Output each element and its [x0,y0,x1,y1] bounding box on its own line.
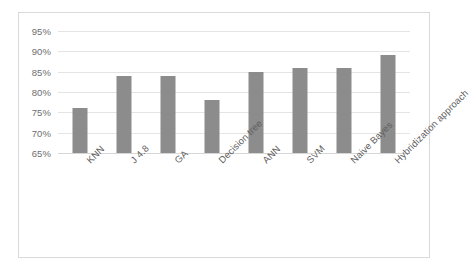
bar[interactable] [293,68,308,153]
bar[interactable] [161,76,176,153]
bar[interactable] [337,68,352,153]
bar-slot [278,31,322,153]
y-axis-tick-label: 70% [32,127,51,138]
bar-slot [322,31,366,153]
chart-frame: 95%90%85%80%75%70%65% KNNJ 4.8GADecision… [18,12,430,258]
plot-area: 95%90%85%80%75%70%65% KNNJ 4.8GADecision… [58,31,410,153]
bar[interactable] [73,108,88,153]
bar[interactable] [205,100,220,153]
y-axis-tick-label: 65% [32,148,51,159]
y-axis-tick-label: 90% [32,46,51,57]
y-axis-tick-label: 85% [32,66,51,77]
bar-slot [58,31,102,153]
bar[interactable] [249,72,264,153]
bar-series [58,31,410,153]
bar[interactable] [117,76,132,153]
bar-slot [190,31,234,153]
y-axis-tick-label: 95% [32,26,51,37]
y-axis-tick-label: 75% [32,107,51,118]
bar-slot [102,31,146,153]
bar-slot [146,31,190,153]
y-axis-tick-label: 80% [32,87,51,98]
